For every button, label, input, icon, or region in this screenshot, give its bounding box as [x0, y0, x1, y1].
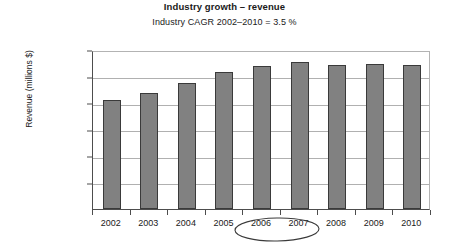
- x-axis-tick-mark: [242, 210, 243, 215]
- bar: [178, 83, 196, 209]
- x-axis-tick-mark: [205, 210, 206, 215]
- x-axis-tick-mark: [167, 210, 168, 215]
- x-axis-tick-mark: [392, 210, 393, 215]
- bar: [403, 65, 421, 209]
- bar: [140, 93, 158, 209]
- x-axis-tick-mark: [355, 210, 356, 215]
- x-axis-tick-label-2002: 2002: [101, 218, 121, 228]
- bar: [103, 100, 121, 209]
- x-axis-tick-label-2009: 2009: [364, 218, 384, 228]
- chart-container: Industry growth – revenue Industry CAGR …: [0, 0, 449, 248]
- chart-subtitle: Industry CAGR 2002–2010 = 3.5 %: [0, 17, 449, 27]
- chart-title: Industry growth – revenue: [0, 1, 449, 12]
- x-axis-tick-mark: [280, 210, 281, 215]
- x-axis-tick-mark: [317, 210, 318, 215]
- x-axis-tick-mark: [92, 210, 93, 215]
- bar: [215, 72, 233, 209]
- x-axis-tick-label-2004: 2004: [176, 218, 196, 228]
- plot-area: [92, 51, 430, 210]
- x-axis-tick-label-2003: 2003: [138, 218, 158, 228]
- bar-series: [93, 52, 429, 209]
- x-axis-tick-label-2008: 2008: [326, 218, 346, 228]
- x-axis-tick-label-2007: 2007: [289, 218, 309, 228]
- x-axis-tick-mark: [130, 210, 131, 215]
- bar: [328, 65, 346, 209]
- bar: [366, 64, 384, 209]
- x-axis-tick-label-2006: 2006: [251, 218, 271, 228]
- y-axis-title: Revenue (millions $): [24, 24, 34, 154]
- x-axis-tick-mark: [430, 210, 431, 215]
- bar: [253, 66, 271, 209]
- x-axis-tick-label-2010: 2010: [401, 218, 421, 228]
- bar: [291, 62, 309, 209]
- x-axis-tick-label-2005: 2005: [213, 218, 233, 228]
